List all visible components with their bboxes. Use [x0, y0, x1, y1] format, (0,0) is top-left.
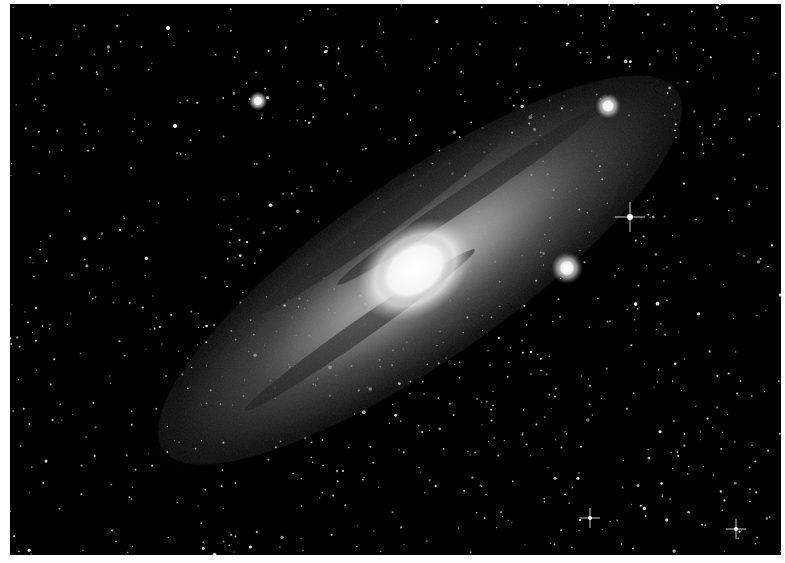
starfield — [10, 4, 781, 555]
andromeda-galaxy-photo — [10, 4, 781, 555]
galaxy-disk — [95, 4, 745, 537]
